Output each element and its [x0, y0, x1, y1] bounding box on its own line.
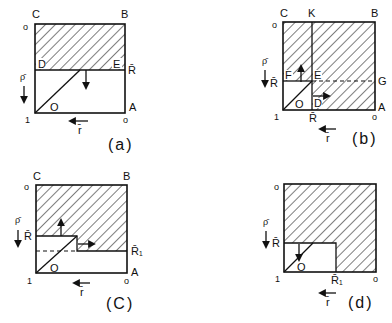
label-O: O [297, 261, 306, 273]
label-B: B [121, 8, 128, 20]
label-B: B [371, 7, 378, 19]
tick-top-left: o [23, 22, 28, 32]
label-r: r̄ [325, 296, 330, 308]
label-C: C [33, 170, 41, 182]
label-D: D [314, 97, 322, 109]
label-rho: ρ̄ [262, 56, 269, 66]
label-rho: ρ̄ [15, 215, 22, 225]
label-R: R̄ [128, 64, 136, 76]
label-r: r̄ [79, 286, 84, 298]
hatched-region [36, 185, 127, 251]
label-O: O [50, 262, 59, 274]
label-r: r̄ [325, 132, 330, 144]
label-R1: R̄₁ [331, 274, 343, 286]
label-D: D [38, 58, 46, 70]
label-R-bottom: R̄ [309, 112, 317, 124]
label-C: C [32, 8, 40, 20]
tick-top-left: o [272, 20, 277, 30]
label-rho: ρ̄ [263, 217, 270, 227]
tick-top-left: o [274, 182, 279, 192]
tick-bottom-right: o [124, 276, 129, 286]
label-A: A [378, 101, 386, 113]
figure: D E O C B A R̄ o 1 o ρ̄ r̄ (a) F E D O C… [0, 0, 392, 323]
interface-step-line [284, 243, 336, 272]
label-B: B [123, 170, 130, 182]
tick-top-left: o [24, 182, 29, 192]
tick-bottom-left: 1 [27, 276, 32, 286]
label-rho: ρ̄ [20, 72, 27, 82]
tick-bottom-right: o [123, 115, 128, 125]
panel-b: F E D O C K B G A R̄ R̄ o 1 o ρ̄ r̄ (b) [262, 7, 387, 147]
label-R: R̄ [24, 230, 32, 242]
tick-bottom-left: 1 [275, 274, 280, 284]
tick-bottom-right: o [373, 274, 378, 284]
tick-bottom-left: 1 [274, 112, 279, 122]
label-E: E [113, 58, 120, 70]
panel-c: O C B A R̄ R̄₁ o 1 o ρ̄ r̄ (C) [15, 170, 143, 312]
caption-c: (C) [106, 295, 134, 312]
hatched-region [35, 24, 125, 70]
label-A: A [129, 101, 137, 113]
label-E: E [314, 69, 321, 81]
label-O: O [50, 101, 59, 113]
label-C: C [280, 7, 288, 19]
caption-d: (d) [348, 294, 374, 311]
label-O: O [295, 98, 304, 110]
panel-a: D E O C B A R̄ o 1 o ρ̄ r̄ (a) [20, 8, 137, 153]
tick-bottom-left: 1 [25, 115, 30, 125]
caption-b: (b) [352, 130, 378, 147]
caption-a: (a) [108, 136, 134, 153]
label-A: A [131, 266, 139, 278]
label-r: r̄ [77, 124, 82, 136]
label-G: G [378, 75, 387, 87]
label-K: K [308, 7, 316, 19]
label-F: F [285, 69, 292, 81]
panel-d: O R̄ R̄₁ o 1 o ρ̄ r̄ (d) [263, 182, 378, 311]
label-R: R̄ [272, 237, 280, 249]
label-R1: R̄₁ [131, 245, 143, 257]
tick-bottom-right: o [372, 112, 377, 122]
label-R-left: R̄ [270, 77, 278, 89]
